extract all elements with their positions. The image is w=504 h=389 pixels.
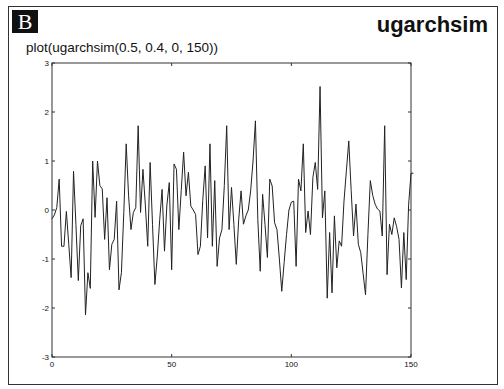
y-tick-label: -3 <box>42 353 50 362</box>
y-tick-label: 3 <box>45 59 50 68</box>
y-tick-label: 1 <box>45 157 50 166</box>
x-tick-label: 100 <box>285 360 299 369</box>
y-tick-label: -2 <box>42 304 50 313</box>
line-chart: 050100150-3-2-10123 <box>0 0 504 389</box>
y-tick-label: 0 <box>45 206 50 215</box>
y-tick-label: -1 <box>42 255 50 264</box>
x-tick-label: 50 <box>167 360 176 369</box>
x-tick-label: 0 <box>50 360 55 369</box>
y-tick-label: 2 <box>45 108 50 117</box>
series-line <box>52 87 413 315</box>
x-tick-label: 150 <box>404 360 418 369</box>
